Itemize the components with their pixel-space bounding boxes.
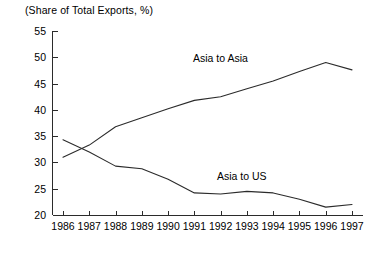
y-axis-tick-label: 35 [24,131,46,141]
y-axis-tick-label: 25 [24,184,46,194]
plot-area [0,0,374,257]
y-axis-tick-label: 30 [24,157,46,167]
x-axis-tick-label: 1997 [337,221,367,231]
y-axis-tick-label: 55 [24,26,46,36]
y-axis-tick-label: 45 [24,79,46,89]
y-axis-tick-label: 50 [24,52,46,62]
series-line-asia-to-asia [63,63,352,158]
y-axis-tick-label: 20 [24,210,46,220]
x-axis-ticks [64,211,353,216]
series-label-asia-to-us: Asia to US [217,170,267,182]
y-axis-ticks [53,32,58,216]
y-axis-tick-label: 40 [24,105,46,115]
chart-container: (Share of Total Exports, %) 202530354045… [0,0,374,257]
series-line-asia-to-us [63,140,352,207]
series-label-asia-to-asia: Asia to Asia [193,52,248,64]
